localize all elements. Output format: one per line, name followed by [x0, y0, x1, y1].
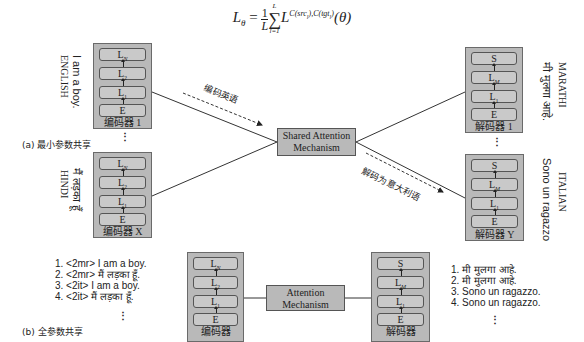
output-ellipsis: ⋮ [490, 318, 500, 322]
encoder-x: LN L2 L1 E 编码器 X [93, 152, 152, 238]
shared-decoder: S LM L1 E 解码器 [371, 252, 430, 342]
hindi-label: HINDI [58, 170, 70, 198]
encoder-caption: 编码器 X [94, 226, 151, 237]
output-sentences: 1. मी मुलगा आहे. 2. मी मुलगा आहे. 3. Son… [451, 264, 541, 308]
shared-attention-box: Shared Attention Mechanism [277, 128, 356, 156]
layer-embedding: E [99, 213, 146, 226]
layer-embedding: E [471, 215, 518, 228]
input-sentences: 1. <2mr> I am a boy. 2. <2mr> मैं लड़का … [55, 258, 147, 302]
encoder-ellipsis: ⋮ [120, 135, 130, 139]
shared-encoder: LN L2 L1 E 编码器 [187, 252, 244, 342]
marathi-label: MARATHI [556, 62, 568, 108]
italian-sentence: Sono un ragazzo [541, 158, 553, 241]
layer-embedding: E [471, 108, 517, 121]
english-label: ENGLISH [58, 55, 70, 98]
attention-box: Attention Mechanism [266, 285, 345, 311]
italian-label: ITALIAN [556, 172, 568, 212]
encoder-caption: 编码器 1 [94, 117, 151, 128]
layer-embedding: E [377, 313, 424, 326]
marathi-sentence: मी मुलगा आहे. [541, 62, 553, 121]
decoder-y: S LM L1 E 解码器 Y [465, 154, 524, 241]
decoder-ellipsis: ⋮ [492, 140, 502, 144]
encoder-1: LN L2 L1 E 编码器 1 [93, 43, 152, 129]
decoder-caption: 解码器 Y [466, 229, 523, 240]
layer-embedding: E [99, 104, 146, 117]
layer-embedding: E [193, 313, 238, 326]
decoder-caption: 解码器 1 [466, 121, 522, 132]
decoder-caption: 解码器 [372, 326, 429, 337]
decoder-1: S LM L1 E 解码器 1 [465, 47, 523, 133]
part-b-caption: (b) 全参数共享 [22, 325, 83, 338]
encoder-caption: 编码器 [188, 326, 243, 337]
english-sentence: I am a boy. [71, 55, 83, 109]
input-ellipsis: ⋮ [118, 314, 128, 318]
hindi-sentence: मैं लड़का हूँ [71, 168, 83, 211]
part-a-caption: (a) 最小参数共享 [22, 138, 91, 151]
